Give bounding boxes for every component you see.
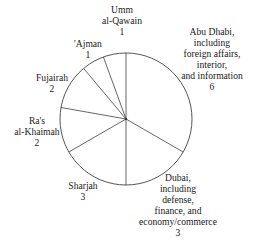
label-value: 1	[74, 49, 102, 60]
label-dubai: Dubai, including defense, finance, and e…	[139, 172, 217, 238]
label-text: and information	[181, 70, 243, 81]
label-value: 3	[68, 191, 97, 202]
pie-center-dot	[125, 118, 127, 120]
label-text: Umm	[102, 4, 142, 15]
label-text: defense,	[139, 194, 217, 205]
label-text: Ra's	[14, 115, 59, 126]
label-fujairah: Fujairah 2	[36, 72, 68, 94]
label-text: 'Ajman	[74, 38, 102, 49]
label-value: 2	[14, 137, 59, 148]
label-text: al-Qawain	[102, 15, 142, 26]
label-umm-al-qawain: Umm al-Qawain 1	[102, 4, 142, 37]
label-text: al-Khaimah	[14, 126, 59, 137]
label-text: Fujairah	[36, 72, 68, 83]
label-text: finance, and	[139, 205, 217, 216]
label-abu-dhabi: Abu Dhabi, including foreign affairs, in…	[181, 26, 243, 92]
label-text: foreign affairs,	[181, 48, 243, 59]
label-text: interior,	[181, 59, 243, 70]
label-text: Sharjah	[68, 180, 97, 191]
label-value: 3	[139, 227, 217, 238]
label-text: Dubai,	[139, 172, 217, 183]
label-value: 6	[181, 81, 243, 92]
label-text: including	[139, 183, 217, 194]
label-text: including	[181, 37, 243, 48]
label-ras-al-khaimah: Ra's al-Khaimah 2	[14, 115, 59, 148]
label-sharjah: Sharjah 3	[68, 180, 97, 202]
label-text: economy/commerce	[139, 216, 217, 227]
label-value: 2	[36, 83, 68, 94]
label-value: 1	[102, 26, 142, 37]
label-ajman: 'Ajman 1	[74, 38, 102, 60]
label-text: Abu Dhabi,	[181, 26, 243, 37]
